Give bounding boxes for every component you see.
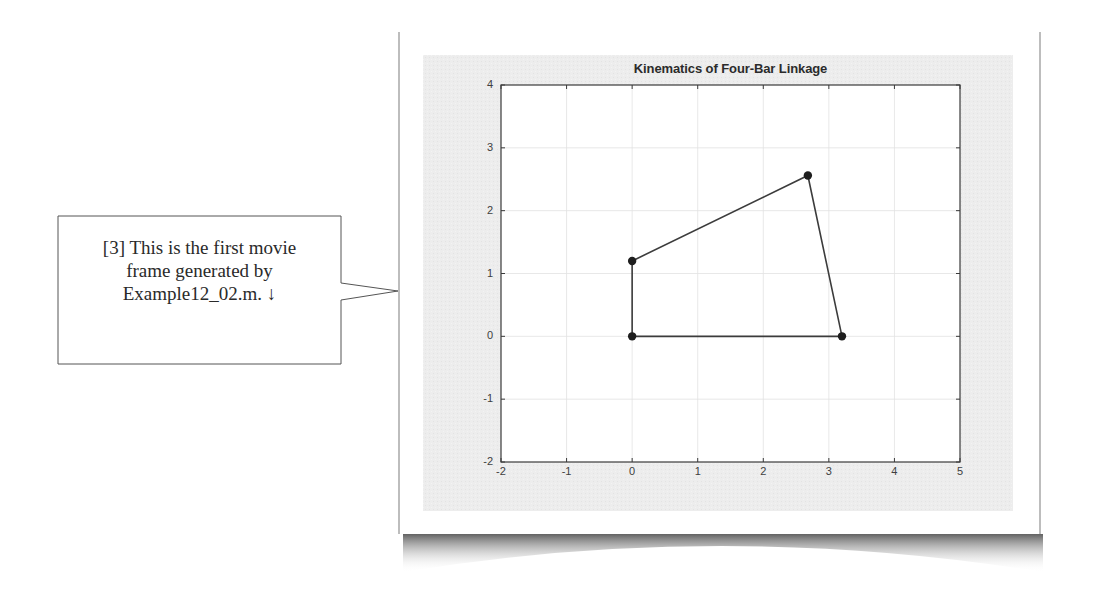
x-tick-label: -2 xyxy=(491,465,511,477)
y-tick-label: -2 xyxy=(473,455,493,467)
x-tick-label: 1 xyxy=(688,465,708,477)
y-tick-label: 3 xyxy=(473,141,493,153)
x-tick-label: 0 xyxy=(622,465,642,477)
x-tick-label: 5 xyxy=(950,465,970,477)
joint-marker-a xyxy=(628,257,636,265)
y-tick-label: 4 xyxy=(473,78,493,90)
y-tick-label: 2 xyxy=(473,204,493,216)
x-tick-label: 4 xyxy=(884,465,904,477)
y-tick-label: 0 xyxy=(473,329,493,341)
callout-line-1: [3] This is the first movie xyxy=(58,236,341,259)
x-tick-label: 2 xyxy=(753,465,773,477)
callout-text: [3] This is the first movie frame genera… xyxy=(58,236,341,305)
chart-title: Kinematics of Four-Bar Linkage xyxy=(501,61,960,76)
y-tick-label: 1 xyxy=(473,267,493,279)
callout-line-3: Example12_02.m. ↓ xyxy=(58,282,341,305)
callout-line-2: frame generated by xyxy=(58,259,341,282)
y-tick-label: -1 xyxy=(473,392,493,404)
card-shadow xyxy=(403,534,1043,572)
x-tick-label: 3 xyxy=(819,465,839,477)
x-tick-label: -1 xyxy=(557,465,577,477)
page: [3] This is the first movie frame genera… xyxy=(0,0,1096,594)
joint-marker-b xyxy=(804,171,812,179)
joint-marker-o4 xyxy=(838,332,846,340)
joint-marker-o2 xyxy=(628,332,636,340)
